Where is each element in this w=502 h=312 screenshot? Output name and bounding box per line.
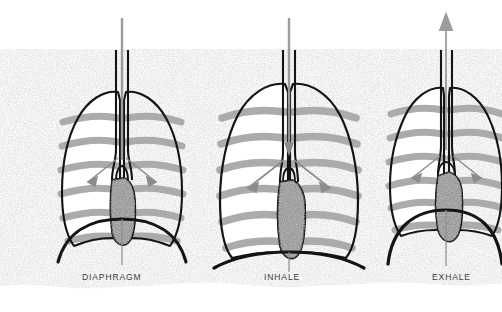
label-diaphragm: DIAPHRAGM — [82, 272, 142, 282]
heart-texture-3 — [436, 172, 463, 241]
heart-texture-1 — [111, 178, 136, 245]
respiration-diagram: DIAPHRAGM INHALE EXHALE — [0, 0, 502, 312]
diagram-canvas — [0, 0, 502, 312]
label-inhale: INHALE — [264, 272, 300, 282]
heart-texture-2 — [278, 180, 305, 258]
label-exhale: EXHALE — [432, 272, 471, 282]
